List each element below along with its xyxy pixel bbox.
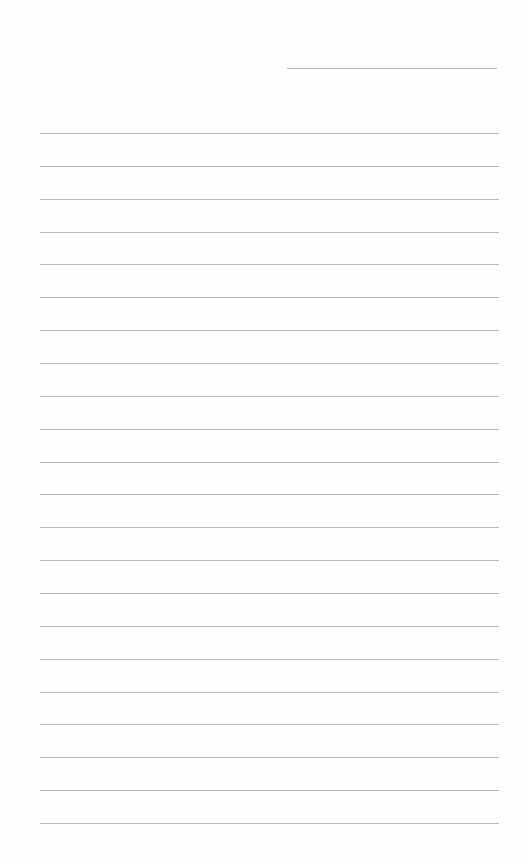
ruled-line: [40, 166, 499, 167]
ruled-line: [40, 199, 499, 200]
ruled-line: [40, 757, 499, 758]
lined-paper-page: [0, 0, 526, 858]
ruled-line: [40, 330, 499, 331]
ruled-line: [40, 494, 499, 495]
ruled-line: [40, 297, 499, 298]
ruled-line: [40, 363, 499, 364]
ruled-line: [40, 429, 499, 430]
ruled-line: [40, 823, 499, 824]
ruled-line: [40, 659, 499, 660]
header-name-line: [287, 68, 497, 69]
ruled-line: [40, 232, 499, 233]
ruled-line: [40, 790, 499, 791]
ruled-line: [40, 462, 499, 463]
ruled-line: [40, 560, 499, 561]
ruled-line: [40, 724, 499, 725]
ruled-line: [40, 593, 499, 594]
ruled-line: [40, 626, 499, 627]
ruled-line: [40, 396, 499, 397]
ruled-line: [40, 264, 499, 265]
ruled-line: [40, 692, 499, 693]
ruled-line: [40, 527, 499, 528]
ruled-line: [40, 133, 499, 134]
